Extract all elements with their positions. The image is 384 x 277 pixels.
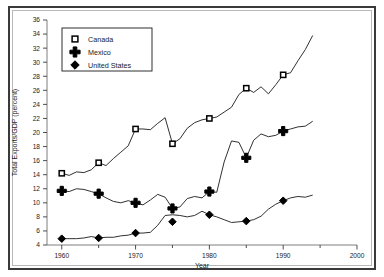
- y-tick-label: 12: [33, 185, 41, 192]
- line-chart: 4681012141618202224262830323436196019701…: [0, 0, 384, 277]
- legend-label-canada: Canada: [88, 35, 113, 44]
- marker-canada: [170, 141, 175, 146]
- y-tick-label: 26: [33, 87, 41, 94]
- marker-united-states: [169, 218, 177, 226]
- marker-canada: [59, 171, 64, 176]
- marker-united-states: [279, 197, 287, 205]
- y-tick-label: 20: [33, 129, 41, 136]
- marker-united-states: [58, 235, 66, 243]
- y-tick-label: 18: [33, 143, 41, 150]
- x-tick-label: 1960: [54, 252, 69, 259]
- marker-canada: [207, 116, 212, 121]
- y-tick-label: 34: [33, 30, 41, 37]
- marker-mexico: [242, 153, 251, 162]
- y-tick-label: 4: [36, 241, 40, 248]
- y-tick-label: 30: [33, 59, 41, 66]
- y-tick-label: 8: [36, 213, 40, 220]
- marker-canada: [133, 126, 138, 131]
- y-tick-label: 36: [33, 16, 41, 23]
- marker-canada: [96, 160, 101, 165]
- x-tick-label: 1990: [276, 252, 291, 259]
- marker-canada: [281, 72, 286, 77]
- marker-mexico: [168, 204, 177, 213]
- y-tick-label: 28: [33, 73, 41, 80]
- legend-label-mexico: Mexico: [88, 48, 111, 57]
- marker-mexico: [279, 127, 288, 136]
- series-line-united-states: [62, 195, 313, 239]
- marker-united-states: [132, 229, 140, 237]
- legend-label-united-states: United States: [88, 61, 132, 70]
- y-tick-label: 6: [36, 227, 40, 234]
- y-axis-title: Total Exports/GDP (percent): [11, 89, 19, 176]
- chart-figure: 4681012141618202224262830323436196019701…: [0, 0, 384, 277]
- marker-mexico: [94, 189, 103, 198]
- x-tick-label: 1980: [202, 252, 217, 259]
- y-tick-label: 16: [33, 157, 41, 164]
- x-axis-title: Year: [195, 262, 210, 269]
- x-tick-label: 2000: [350, 252, 365, 259]
- y-tick-label: 22: [33, 115, 41, 122]
- marker-united-states: [95, 234, 103, 242]
- marker-mexico: [131, 198, 140, 207]
- marker-united-states: [243, 217, 251, 225]
- y-tick-label: 24: [33, 101, 41, 108]
- legend-marker-canada: [72, 36, 78, 42]
- x-tick-label: 1970: [128, 252, 143, 259]
- y-tick-label: 14: [33, 171, 41, 178]
- y-tick-label: 10: [33, 199, 41, 206]
- marker-mexico: [57, 186, 66, 195]
- y-tick-label: 32: [33, 45, 41, 52]
- marker-united-states: [206, 211, 214, 219]
- marker-canada: [244, 86, 249, 91]
